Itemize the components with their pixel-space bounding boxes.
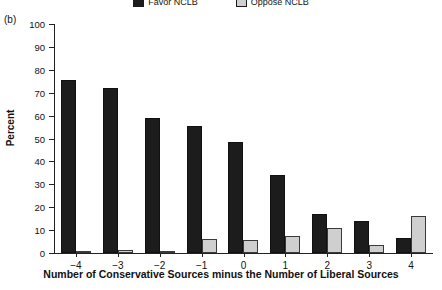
legend-swatch-favor-icon [133,0,144,7]
bar-group [348,24,390,253]
y-tick-mark [49,70,54,71]
y-tick-label: 40 [34,156,45,167]
x-tick-mark [244,253,245,257]
y-tick-label: 50 [34,133,45,144]
bar-oppose [76,251,91,253]
chart-legend: Favor NCLB Oppose NCLB [0,0,442,8]
x-tick-mark [118,253,119,257]
bar-favor [396,238,411,253]
x-tick-mark [327,253,328,257]
y-tick-label: 60 [34,110,45,121]
y-tick-label: 10 [34,225,45,236]
y-tick-label: 0 [40,248,45,259]
y-tick-mark [49,161,54,162]
y-tick-label: 70 [34,87,45,98]
bar-group [264,24,306,253]
y-tick-mark [49,253,54,254]
bar-group [55,24,97,253]
x-tick-mark [411,253,412,257]
bar-oppose [243,240,258,253]
bar-oppose [160,251,175,253]
bar-group [181,24,223,253]
bar-oppose [369,245,384,253]
bar-favor [103,88,118,253]
panel-label: (b) [4,14,16,25]
x-tick-mark [369,253,370,257]
bar-favor [270,175,285,253]
bar-favor [312,214,327,253]
y-tick-mark [49,139,54,140]
x-tick-mark [160,253,161,257]
x-tick-mark [202,253,203,257]
bar-group [306,24,348,253]
y-tick-mark [49,116,54,117]
y-tick-label: 90 [34,41,45,52]
y-tick-mark [49,24,54,25]
bar-favor [228,142,243,253]
y-tick-label: 30 [34,179,45,190]
y-axis-title: Percent [5,110,16,147]
y-tick-mark [49,93,54,94]
bar-favor [187,126,202,253]
y-tick-mark [49,207,54,208]
legend-label-favor: Favor NCLB [148,0,198,7]
legend-swatch-oppose-icon [236,0,247,7]
y-tick-mark [49,184,54,185]
bar-group [223,24,265,253]
bar-group [390,24,432,253]
bar-oppose [411,216,426,253]
y-tick-mark [49,47,54,48]
bar-favor [354,221,369,253]
y-tick-label: 100 [29,19,45,30]
x-tick-mark [285,253,286,257]
x-axis-title: Number of Conservative Sources minus the… [0,268,442,280]
bar-group [139,24,181,253]
bar-oppose [285,236,300,253]
bar-favor [61,80,76,253]
figure-panel-b: Favor NCLB Oppose NCLB (b) Percent 01020… [0,0,442,290]
bar-oppose [118,250,133,253]
legend-label-oppose: Oppose NCLB [251,0,309,7]
bar-favor [145,118,160,253]
y-tick-label: 80 [34,64,45,75]
bar-oppose [202,239,217,253]
y-tick-label: 20 [34,202,45,213]
bar-oppose [327,228,342,253]
x-tick-mark [76,253,77,257]
legend-item-oppose: Oppose NCLB [236,0,309,7]
legend-item-favor: Favor NCLB [133,0,198,7]
plot-area: 0102030405060708090100 −4−3−2−101234 [55,24,432,253]
bar-group [97,24,139,253]
y-tick-mark [49,230,54,231]
